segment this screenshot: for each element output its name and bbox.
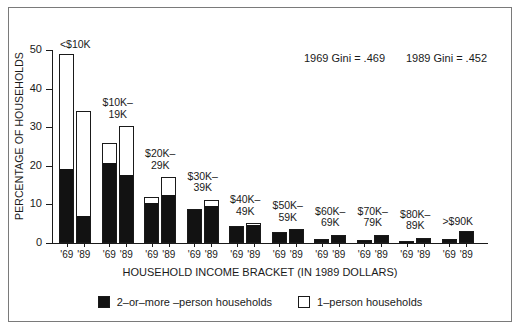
- x-axis-tick: [364, 243, 365, 247]
- x-axis-tick: [381, 243, 382, 247]
- legend-item-two-or-more-person: 2–or–more –person households: [98, 296, 272, 308]
- x-axis-tick: [211, 243, 212, 247]
- bar-1969: [102, 143, 117, 243]
- x-axis-tick-label: '89: [451, 249, 481, 260]
- bar-1989: [76, 111, 91, 243]
- bar-segment-two-or-more-person: [77, 216, 90, 242]
- bar-1989: [374, 235, 389, 243]
- empty-square-icon: [298, 296, 310, 308]
- x-axis-tick: [109, 243, 110, 247]
- bar-segment-two-or-more-person: [358, 241, 371, 242]
- y-axis-tick: [46, 127, 53, 128]
- bar-1969: [187, 209, 202, 243]
- x-axis-tick: [169, 243, 170, 247]
- x-axis-tick: [152, 243, 153, 247]
- x-axis-tick: [194, 243, 195, 247]
- bar-1989: [246, 223, 261, 243]
- bar-group-label: $10K– 19K: [83, 97, 153, 120]
- bar-1989: [459, 231, 474, 243]
- y-axis-tick-label: 0: [6, 237, 42, 248]
- bar-segment-two-or-more-person: [273, 233, 286, 242]
- x-axis-tick: [449, 243, 450, 247]
- x-axis-label: HOUSEHOLD INCOME BRACKET (IN 1989 DOLLAR…: [0, 266, 520, 278]
- bar-segment-two-or-more-person: [145, 203, 158, 242]
- legend-label-two-or-more-person: 2–or–more –person households: [117, 296, 272, 308]
- bar-segment-two-or-more-person: [460, 232, 473, 242]
- bar-1969: [229, 226, 244, 243]
- filled-square-icon: [98, 296, 110, 308]
- x-axis-tick: [466, 243, 467, 247]
- bar-segment-two-or-more-person: [60, 169, 73, 242]
- bar-segment-two-or-more-person: [375, 236, 388, 242]
- bar-segment-two-or-more-person: [315, 240, 328, 242]
- bar-group-label: <$10K: [40, 39, 110, 51]
- x-axis-line: [52, 243, 488, 244]
- legend-label-one-person: 1–person households: [317, 296, 422, 308]
- bar-group-label: >$90K: [423, 216, 493, 228]
- annotation-gini-1969: 1969 Gini = .469: [304, 52, 385, 64]
- bar-group-label: $20K– 29K: [125, 148, 195, 171]
- chart-legend: 2–or–more –person households 1–person ho…: [0, 296, 520, 308]
- y-axis-line: [52, 50, 53, 243]
- legend-item-one-person: 1–person households: [298, 296, 422, 308]
- y-axis-tick: [46, 166, 53, 167]
- bar-segment-two-or-more-person: [162, 195, 175, 242]
- bar-segment-two-or-more-person: [443, 240, 456, 242]
- bar-segment-two-or-more-person: [247, 225, 260, 242]
- y-axis-tick: [46, 243, 53, 244]
- bar-segment-two-or-more-person: [188, 210, 201, 242]
- bar-1989: [289, 229, 304, 243]
- bar-segment-two-or-more-person: [417, 239, 430, 242]
- bar-segment-two-or-more-person: [230, 227, 243, 242]
- bar-1969: [144, 197, 159, 243]
- bar-group-label: $30K– 39K: [168, 171, 238, 194]
- x-axis-tick: [322, 243, 323, 247]
- chart-figure: 50403020100 PERCENTAGE OF HOUSEHOLDS HOU…: [0, 0, 520, 334]
- bar-segment-two-or-more-person: [290, 230, 303, 242]
- x-axis-tick: [254, 243, 255, 247]
- x-axis-tick: [407, 243, 408, 247]
- x-axis-tick: [339, 243, 340, 247]
- bar-segment-two-or-more-person: [120, 175, 133, 242]
- bar-1969: [272, 232, 287, 243]
- y-axis-label: PERCENTAGE OF HOUSEHOLDS: [13, 36, 25, 236]
- y-axis-tick: [46, 89, 53, 90]
- bar-1989: [119, 126, 134, 243]
- x-axis-tick: [84, 243, 85, 247]
- x-axis-tick: [237, 243, 238, 247]
- x-axis-tick: [424, 243, 425, 247]
- x-axis-tick: [67, 243, 68, 247]
- x-axis-tick: [296, 243, 297, 247]
- annotation-gini-1989: 1989 Gini = .452: [406, 52, 487, 64]
- bar-1989: [331, 235, 346, 243]
- bar-segment-two-or-more-person: [332, 236, 345, 242]
- x-axis-tick: [126, 243, 127, 247]
- y-axis-tick: [46, 204, 53, 205]
- bar-segment-two-or-more-person: [103, 163, 116, 242]
- x-axis-tick: [279, 243, 280, 247]
- bar-1969: [59, 54, 74, 243]
